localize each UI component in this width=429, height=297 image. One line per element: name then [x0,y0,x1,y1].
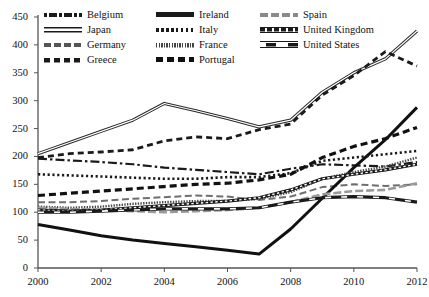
x-tick-label: 2008 [280,276,301,287]
x-tick-label: 2002 [91,276,112,287]
x-tick-label: 2010 [343,276,364,287]
y-tick-label: 100 [2,206,28,217]
y-tick-label: 200 [2,150,28,161]
y-tick-label: 450 [2,11,28,22]
series-greece [38,52,417,158]
series-japan [38,31,417,154]
y-tick-label: 400 [2,39,28,50]
chart-root: BelgiumIrelandSpainJapanItalyUnited King… [0,0,429,297]
series-united-kingdom [38,164,417,211]
y-tick-label: 150 [2,178,28,189]
x-tick-label: 2004 [154,276,175,287]
x-tick-label: 2006 [217,276,238,287]
x-tick-label: 2000 [28,276,49,287]
x-axis-ticks: 2000200220042006200820102012 [0,272,429,292]
series-lines [0,0,429,297]
series-united-states [38,197,417,213]
y-tick-label: 350 [2,67,28,78]
x-tick-label: 2012 [407,276,428,287]
y-tick-label: 50 [2,234,28,245]
y-tick-label: 300 [2,95,28,106]
plot-area [0,0,429,297]
series-ireland [38,107,417,254]
y-tick-label: 250 [2,123,28,134]
